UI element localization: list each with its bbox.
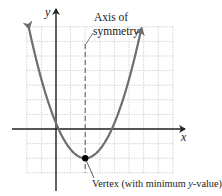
axis-of-symmetry-label-line2: symmetry (93, 25, 139, 38)
vertex-label-prefix: Vertex (with minimum (92, 177, 188, 190)
vertex-label-suffix: -value) (193, 177, 222, 190)
y-axis-label: y (44, 5, 51, 19)
x-axis-label: x (180, 130, 187, 144)
parabola-diagram: y x Axis of symmetry Vertex (with minimu… (0, 0, 222, 196)
vertex-point (82, 155, 88, 161)
axis-of-symmetry-leader-line (86, 33, 93, 44)
axis-of-symmetry-label-line1: Axis of (94, 11, 128, 23)
vertex-leader-line (85, 158, 94, 178)
vertex-label: Vertex (with minimum y-value) (92, 177, 222, 190)
